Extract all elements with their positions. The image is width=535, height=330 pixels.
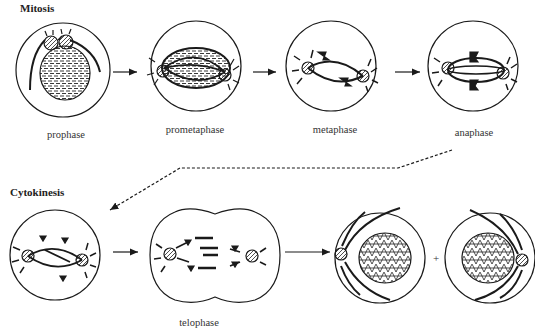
- cell-metaphase: [286, 21, 378, 111]
- cell-telophase: [150, 209, 280, 302]
- cell-daughter-2: [445, 210, 535, 303]
- cell-prometaphase: [147, 21, 241, 111]
- cell-daughter-1: [335, 208, 425, 303]
- cell-late-anaphase: [10, 210, 100, 300]
- cell-cycle-diagram: +: [0, 0, 535, 330]
- cell-anaphase: [428, 21, 518, 111]
- plus-sign: +: [433, 252, 439, 264]
- cell-prophase: [16, 23, 110, 117]
